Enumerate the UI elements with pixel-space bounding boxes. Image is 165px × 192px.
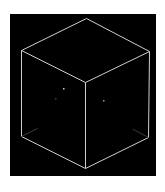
cube-visible-edges: [22, 19, 150, 169]
cube-hidden-edge: [133, 129, 149, 137]
cube-edge: [86, 138, 149, 169]
cube-edge: [86, 52, 150, 83]
cube-edge: [87, 19, 150, 52]
cube-face-dots: [55, 88, 105, 102]
cube-edge: [22, 137, 86, 169]
cube-hidden-edge: [22, 129, 38, 137]
wireframe-cube: [0, 0, 165, 192]
face-dot: [63, 88, 65, 90]
cube-edge: [149, 52, 150, 138]
face-dot: [55, 98, 57, 100]
cube-edge: [22, 51, 86, 83]
face-dot: [103, 100, 105, 102]
cube-edge: [22, 19, 87, 51]
